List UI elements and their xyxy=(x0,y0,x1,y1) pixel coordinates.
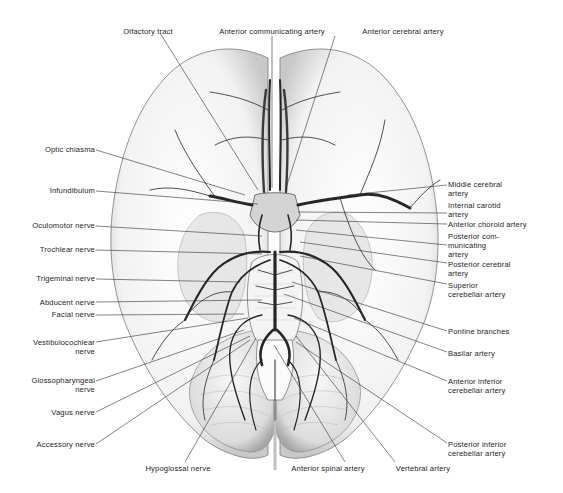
label-line: Vagus nerve xyxy=(51,408,95,417)
label-line: Middle cerebral xyxy=(448,180,502,189)
label-anterior-inferior-cerebellar-artery: Anterior inferior cerebellar artery xyxy=(448,377,505,395)
label-line: Pontine branches xyxy=(448,327,510,336)
label-line: Basilar artery xyxy=(448,349,495,358)
label-line: Abducent nerve xyxy=(40,298,95,307)
label-line: Anterior choroid artery xyxy=(448,220,527,229)
label-posterior-inferior-cerebellar-artery: Posterior inferior cerebellar artery xyxy=(448,440,506,458)
label-line: Internal carotid xyxy=(448,201,501,210)
label-line: Optic chiasma xyxy=(45,145,95,154)
label-line: artery xyxy=(448,269,511,278)
label-accessory-nerve: Accessory nerve xyxy=(37,440,95,449)
label-optic-chiasma: Optic chiasma xyxy=(45,145,95,154)
label-pontine-branches: Pontine branches xyxy=(448,327,510,336)
label-anterior-communicating-artery: Anterior communicating artery xyxy=(219,27,325,36)
label-line: Infundibulum xyxy=(50,186,95,195)
label-line: artery xyxy=(448,210,501,219)
label-vertebral-artery: Vertebral artery xyxy=(396,464,450,473)
label-basilar-artery: Basilar artery xyxy=(448,349,495,358)
label-oculomotor-nerve: Oculomotor nerve xyxy=(32,221,95,230)
label-line: Glossopharyngeal xyxy=(31,376,95,385)
label-line: Oculomotor nerve xyxy=(32,221,95,230)
label-middle-cerebral-artery: Middle cerebral artery xyxy=(448,180,502,198)
label-line: artery xyxy=(448,189,502,198)
label-line: artery xyxy=(448,250,499,259)
label-line: Posterior com- xyxy=(448,232,499,241)
label-superior-cerebellar-artery: Superior cerebellar artery xyxy=(448,281,505,299)
label-line: Facial nerve xyxy=(52,310,95,319)
label-facial-nerve: Facial nerve xyxy=(52,310,95,319)
label-glossopharyngeal-nerve: Glossopharyngeal nerve xyxy=(31,376,95,394)
label-line: Anterior inferior xyxy=(448,377,505,386)
label-line: Vestibulocochlear xyxy=(33,338,95,347)
label-olfactory-tract: Olfactory tract xyxy=(123,27,173,36)
label-abducent-nerve: Abducent nerve xyxy=(40,298,95,307)
label-anterior-cerebral-artery: Anterior cerebral artery xyxy=(362,27,443,36)
label-anterior-spinal-artery: Anterior spinal artery xyxy=(291,464,364,473)
label-line: Accessory nerve xyxy=(37,440,95,449)
label-line: cerebellar artery xyxy=(448,386,505,395)
label-line: cerebellar artery xyxy=(448,290,505,299)
label-line: Trochlear nerve xyxy=(40,245,95,254)
label-vestibulocochlear-nerve: Vestibulocochlear nerve xyxy=(33,338,95,356)
label-line: nerve xyxy=(31,385,95,394)
label-infundibulum: Infundibulum xyxy=(50,186,95,195)
label-posterior-communicating-artery: Posterior com- municating artery xyxy=(448,232,499,259)
label-trigeminal-nerve: Trigeminal nerve xyxy=(36,274,95,283)
label-line: Trigeminal nerve xyxy=(36,274,95,283)
label-internal-carotid-artery: Internal carotid artery xyxy=(448,201,501,219)
label-vagus-nerve: Vagus nerve xyxy=(51,408,95,417)
label-line: Posterior inferior xyxy=(448,440,506,449)
label-hypoglossal-nerve: Hypoglossal nerve xyxy=(145,464,210,473)
label-line: nerve xyxy=(33,347,95,356)
label-posterior-cerebral-artery: Posterior cerebral artery xyxy=(448,260,511,278)
label-line: municating xyxy=(448,241,499,250)
label-line: Superior xyxy=(448,281,505,290)
label-line: cerebellar artery xyxy=(448,449,506,458)
label-trochlear-nerve: Trochlear nerve xyxy=(40,245,95,254)
label-line: Posterior cerebral xyxy=(448,260,511,269)
label-anterior-choroid-artery: Anterior choroid artery xyxy=(448,220,527,229)
